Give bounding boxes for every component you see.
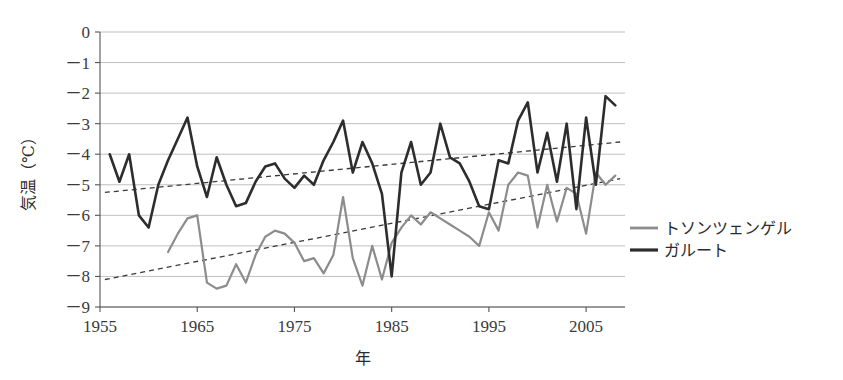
legend: トソンツェンゲルガルート <box>630 220 792 259</box>
y-tick-label: －4 <box>65 145 91 164</box>
y-tick-label: －3 <box>65 115 91 134</box>
x-tick-label: 1955 <box>83 317 117 336</box>
y-tick-label: －9 <box>65 298 91 317</box>
trendline <box>105 179 620 280</box>
y-tick-label: 0 <box>82 23 91 42</box>
y-tick-label: －2 <box>65 84 91 103</box>
y-tick-label: －1 <box>65 54 91 73</box>
line-chart: 0－1－2－3－4－5－6－7－8－9 19551965197519851995… <box>0 0 843 380</box>
y-tick-labels: 0－1－2－3－4－5－6－7－8－9 <box>65 23 91 317</box>
x-tick-label: 2005 <box>569 317 603 336</box>
y-tick-label: －6 <box>65 206 91 225</box>
y-tick-label: －8 <box>65 267 91 286</box>
y-axis <box>95 32 100 307</box>
x-tick-label: 1965 <box>180 317 214 336</box>
gridlines <box>100 32 625 307</box>
x-tick-label: 1995 <box>472 317 506 336</box>
chart-figure: 0－1－2－3－4－5－6－7－8－9 19551965197519851995… <box>0 0 843 380</box>
x-axis <box>100 307 625 312</box>
x-tick-labels: 195519651975198519952005 <box>83 317 603 336</box>
data-series <box>110 96 616 289</box>
legend-label: ガルート <box>664 242 728 259</box>
y-axis-title: 気温（℃） <box>20 129 37 211</box>
y-tick-label: －5 <box>65 176 91 195</box>
x-tick-label: 1975 <box>277 317 311 336</box>
series-line <box>110 96 616 276</box>
y-tick-label: －7 <box>65 237 91 256</box>
x-tick-label: 1985 <box>375 317 409 336</box>
x-axis-title: 年 <box>355 350 371 367</box>
legend-label: トソンツェンゲル <box>664 220 792 237</box>
trendlines <box>105 142 620 280</box>
